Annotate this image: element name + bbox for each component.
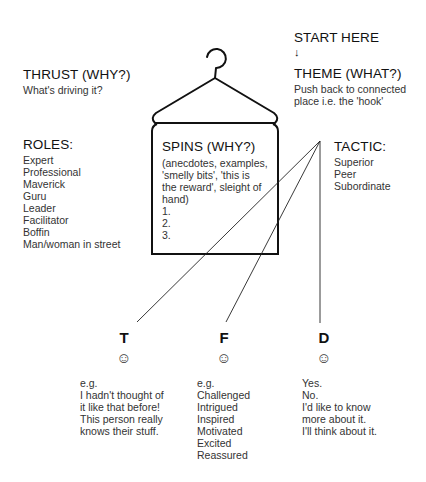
outcome-line: Challenged [197,389,250,401]
spins-line: the reward', sleight of [162,181,274,193]
outcome-line: Yes. [302,377,377,389]
smiley-icon: ☺ [114,350,134,366]
role-item: Boffin [23,226,120,238]
outcome-line: e.g. [80,377,164,389]
theme-section: THEME (WHAT?) Push back to connected pla… [294,66,406,107]
outcome-line: knows their stuff. [80,425,164,437]
role-item: Professional [23,166,120,178]
outcome-line: Reassured [197,449,250,461]
roles-list: Expert Professional Maverick Guru Leader… [23,154,120,250]
spins-line: 'smelly bits', 'this is [162,169,274,181]
smiley-icon: ☺ [314,350,334,366]
start-here-label: START HERE [294,30,379,45]
outcome-line: Intrigued [197,401,250,413]
spins-line: hand) [162,193,274,205]
role-item: Maverick [23,178,120,190]
tactic-title: TACTIC: [334,139,391,154]
role-item: Expert [23,154,120,166]
tactic-section: TACTIC: Superior Peer Subordinate [334,139,391,192]
theme-line: place i.e. the 'hook' [294,95,406,107]
tactic-item: Superior [334,156,391,168]
outcome-line: more about it. [302,413,377,425]
theme-line: Push back to connected [294,83,406,95]
role-item: Guru [23,190,120,202]
tactic-item: Peer [334,168,391,180]
spins-line: 1. [162,205,274,217]
outcome-f-text: e.g. Challenged Intrigued Inspired Motiv… [197,377,250,461]
thrust-subtitle: What's driving it? [23,84,131,96]
spins-list: (anecdotes, examples, 'smelly bits', 'th… [162,157,274,241]
outcome-letter-d: D [314,329,334,346]
outcome-line: Inspired [197,413,250,425]
hanger-icon [153,49,278,123]
spins-line: 3. [162,229,274,241]
outcome-letter-t: T [114,329,134,346]
down-arrow-icon: ↓ [294,46,300,58]
tactic-list: Superior Peer Subordinate [334,156,391,192]
outcome-letter-f: F [214,329,234,346]
roles-title: ROLES: [23,137,120,152]
spins-section: SPINS (WHY?) (anecdotes, examples, 'smel… [162,139,274,241]
outcome-line: No. [302,389,377,401]
outcome-t-text: e.g. I hadn't thought of it like that be… [80,377,164,437]
outcome-line: it like that before! [80,401,164,413]
spins-line: 2. [162,217,274,229]
spins-title: SPINS (WHY?) [162,139,274,154]
theme-title: THEME (WHAT?) [294,66,406,81]
spins-line: (anecdotes, examples, [162,157,274,169]
thrust-section: THRUST (WHY?) What's driving it? [23,67,131,96]
outcome-line: Motivated [197,425,250,437]
role-item: Man/woman in street [23,238,120,250]
role-item: Leader [23,202,120,214]
outcome-line: This person really [80,413,164,425]
smiley-icon: ☺ [214,350,234,366]
role-item: Facilitator [23,214,120,226]
outcome-line: I hadn't thought of [80,389,164,401]
outcome-line: e.g. [197,377,250,389]
thrust-title: THRUST (WHY?) [23,67,131,82]
roles-section: ROLES: Expert Professional Maverick Guru… [23,137,120,250]
outcome-line: I'll think about it. [302,425,377,437]
outcome-line: Excited [197,437,250,449]
outcome-line: I'd like to know [302,401,377,413]
tactic-item: Subordinate [334,180,391,192]
outcome-d-text: Yes. No. I'd like to know more about it.… [302,377,377,437]
